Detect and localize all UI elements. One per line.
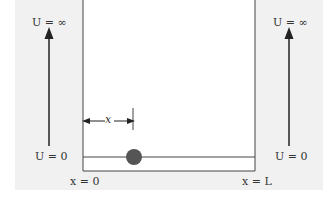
well-diagram — [0, 0, 332, 204]
left-top-potential-label: U = ∞ — [32, 16, 67, 29]
well-interior — [83, 0, 255, 171]
x-position-label: x — [105, 113, 111, 126]
right-bottom-potential-label: U = 0 — [275, 150, 307, 163]
left-wall-label: x = 0 — [70, 175, 99, 188]
right-wall-label: x = L — [242, 175, 272, 188]
left-bottom-potential-label: U = 0 — [35, 150, 67, 163]
right-top-potential-label: U = ∞ — [273, 16, 308, 29]
particle-ball — [126, 149, 142, 165]
